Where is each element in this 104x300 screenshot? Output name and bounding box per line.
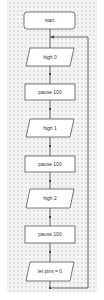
label-high-1: high 1 — [26, 126, 74, 131]
label-high-2: high 2 — [26, 196, 74, 201]
junction-dot — [49, 251, 51, 253]
junction-dot — [49, 216, 51, 218]
junction-dot — [49, 73, 51, 75]
label-high-0: high 0 — [26, 55, 74, 60]
arrow-loop-icon — [50, 36, 54, 39]
junction-dot — [49, 145, 51, 147]
junction-dot — [49, 180, 51, 182]
label-pause-2: pause 100 — [25, 162, 75, 167]
flowchart-diagram — [0, 0, 104, 300]
label-let-pins: let pins = 0 — [26, 269, 74, 274]
label-pause-3: pause 100 — [25, 232, 75, 237]
junction-dot — [49, 287, 51, 289]
label-start: start — [24, 18, 75, 23]
junction-dot — [49, 108, 51, 110]
label-pause-1: pause 100 — [25, 90, 75, 95]
